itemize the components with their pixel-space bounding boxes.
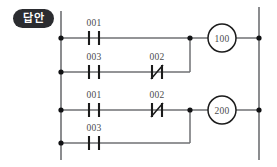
ladder-diagram-root: 답안 001 003 002 100 bbox=[0, 0, 277, 167]
node-left-rail-rung1-branch2 bbox=[58, 69, 63, 74]
contact-label-002-rung1: 002 bbox=[150, 52, 165, 62]
answer-badge: 답안 bbox=[13, 9, 54, 28]
coil-label-200: 200 bbox=[215, 106, 230, 116]
contact-label-003-rung2: 003 bbox=[87, 123, 102, 133]
node-left-rail-rung2-branch1 bbox=[58, 107, 63, 112]
contact-label-001-rung2: 001 bbox=[87, 90, 102, 100]
node-right-rail-rung2 bbox=[256, 107, 261, 112]
node-left-rail-rung2-branch2 bbox=[58, 140, 63, 145]
node-junction-rung2 bbox=[187, 107, 192, 112]
contact-label-002-rung2: 002 bbox=[150, 90, 165, 100]
contact-label-003-rung1: 003 bbox=[87, 52, 102, 62]
node-junction-rung1 bbox=[187, 35, 192, 40]
node-left-rail-rung1-branch1 bbox=[58, 35, 63, 40]
coil-label-100: 100 bbox=[215, 34, 230, 44]
node-right-rail-rung1 bbox=[256, 35, 261, 40]
contact-label-001-rung1: 001 bbox=[87, 18, 102, 28]
